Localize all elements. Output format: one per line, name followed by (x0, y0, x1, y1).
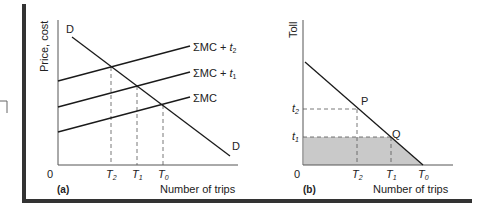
panel-a: Price, cost D D ΣMC + t2 ΣMC + t1 ΣMC 0 … (38, 20, 240, 195)
bottom-border (22, 199, 472, 203)
panel-b-tag: (b) (303, 184, 316, 195)
panel-b-ytick-t1: t1 (292, 130, 299, 143)
panel-a-y-label: Price, cost (38, 21, 50, 72)
mc-plus-t2-label: ΣMC + t2 (193, 41, 237, 54)
mc-plus-t1-label: ΣMC + t1 (193, 67, 237, 80)
figure: Price, cost D D ΣMC + t2 ΣMC + t1 ΣMC 0 … (0, 0, 484, 223)
panel-a-x-label: Number of trips (160, 183, 236, 195)
shaded-revenue-area (304, 137, 423, 165)
panel-b-ytick-t2: t2 (292, 102, 299, 115)
panel-b-tick-T2: T2 (352, 168, 363, 181)
point-p-label: P (361, 95, 368, 107)
panel-b-y-label: Toll (287, 21, 299, 38)
panel-a-tick-t2: T2 (106, 168, 117, 181)
bracket-mark (0, 101, 7, 113)
panel-a-origin: 0 (47, 168, 53, 180)
panel-b-origin: 0 (294, 168, 300, 180)
panel-b-tick-T0: T0 (418, 168, 429, 181)
panel-b-tick-T1: T1 (386, 168, 397, 181)
demand-label-top: D (66, 23, 74, 35)
panel-b-x-label: Number of trips (373, 183, 449, 195)
left-border (22, 4, 26, 203)
mc-label: ΣMC (193, 92, 217, 104)
panel-a-tick-t1: T1 (132, 168, 143, 181)
point-q-label: Q (392, 128, 401, 140)
demand-label-bottom: D (232, 140, 240, 152)
panel-b: Toll P Q t2 t1 0 T2 T1 T0 (b) Number of … (287, 20, 453, 195)
panel-a-tag: (a) (57, 184, 69, 195)
panel-a-tick-t0: T0 (158, 168, 169, 181)
